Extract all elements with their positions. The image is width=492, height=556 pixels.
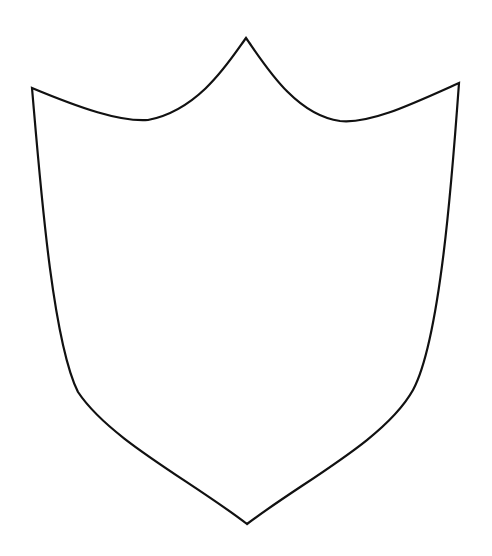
shield-outline — [0, 0, 492, 556]
shield-icon — [32, 38, 459, 524]
